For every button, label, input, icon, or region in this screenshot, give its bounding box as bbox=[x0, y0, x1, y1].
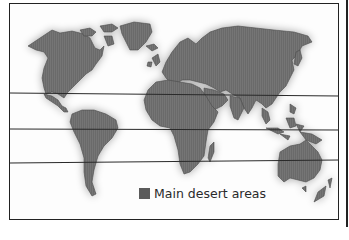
new-zealand bbox=[314, 178, 332, 202]
indonesia bbox=[266, 118, 322, 144]
equator-line bbox=[10, 129, 339, 130]
british-isles bbox=[147, 54, 160, 67]
tasmania bbox=[302, 186, 306, 192]
madagascar bbox=[208, 142, 214, 162]
map-legend: Main desert areas bbox=[139, 186, 266, 201]
desert-swatch-icon bbox=[139, 188, 150, 199]
iceland bbox=[146, 44, 158, 51]
philippines bbox=[290, 104, 296, 114]
legend-label: Main desert areas bbox=[154, 186, 266, 201]
north-america bbox=[28, 30, 104, 98]
south-america bbox=[70, 110, 118, 196]
southeast-asia bbox=[262, 108, 270, 124]
